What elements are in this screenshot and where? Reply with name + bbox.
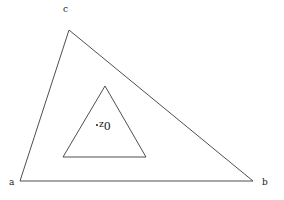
point-label-z0: z0 (99, 120, 111, 132)
vertex-label-c: c (63, 5, 68, 14)
diagram-background (0, 0, 284, 200)
vertex-label-b: b (262, 178, 268, 187)
vertex-label-a: a (9, 178, 14, 187)
point-marker-z0 (96, 124, 98, 126)
point-label-z0-subscript: 0 (104, 120, 111, 133)
triangle-diagram (0, 0, 284, 200)
